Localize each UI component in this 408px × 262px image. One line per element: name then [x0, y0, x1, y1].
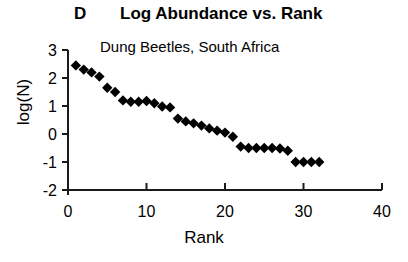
data-point-marker — [275, 143, 285, 153]
data-point-marker — [283, 146, 293, 156]
scatter-plot: 3210-1-2 010203040 — [0, 0, 408, 262]
data-point-marker — [212, 125, 222, 135]
data-point-marker — [188, 118, 198, 128]
y-tick-label: 0 — [48, 126, 57, 143]
data-point-marker — [118, 95, 128, 105]
y-tick-label: 1 — [48, 98, 57, 115]
y-tick-label: 3 — [48, 42, 57, 59]
y-tick-label: -1 — [43, 154, 57, 171]
y-tick-label: -2 — [43, 182, 57, 199]
x-tick-label: 30 — [295, 203, 313, 220]
x-tick-label: 40 — [373, 203, 391, 220]
data-point-marker — [314, 157, 324, 167]
data-point-marker — [236, 141, 246, 151]
x-tick-label: 20 — [216, 203, 234, 220]
data-point-marker — [141, 96, 151, 106]
y-axis-ticks: 3210-1-2 — [43, 42, 68, 199]
data-markers — [71, 60, 325, 167]
y-tick-label: 2 — [48, 70, 57, 87]
figure-panel-d: D Log Abundance vs. Rank Dung Beetles, S… — [0, 0, 408, 262]
x-axis-ticks: 010203040 — [64, 183, 391, 220]
x-tick-label: 10 — [138, 203, 156, 220]
data-point-marker — [165, 102, 175, 112]
x-tick-label: 0 — [64, 203, 73, 220]
